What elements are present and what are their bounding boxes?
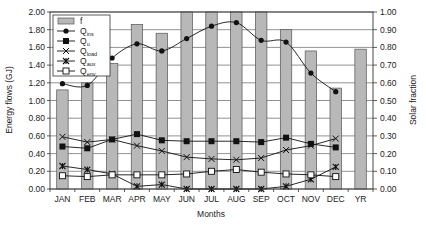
bar-f-oct — [280, 30, 291, 189]
y2-tick-label: 0.80 — [380, 42, 397, 52]
marker-square — [84, 145, 90, 151]
y-tick-label: 0.80 — [28, 113, 45, 123]
marker-square — [134, 131, 140, 137]
x-tick-label: OCT — [277, 194, 295, 204]
marker-open-square — [283, 171, 289, 177]
marker-square — [333, 144, 339, 150]
marker-square — [283, 135, 289, 141]
x-tick-label: MAR — [103, 194, 122, 204]
x-tick-label: AUG — [227, 194, 245, 204]
marker-open-square — [333, 174, 339, 180]
x-axis-label: Months — [197, 209, 225, 219]
chart-container: 0.000.200.400.600.801.001.201.401.601.80… — [0, 0, 426, 226]
marker-diamond — [85, 83, 90, 88]
y2-tick-label: 0.40 — [380, 113, 397, 123]
y-tick-label: 0.40 — [28, 149, 45, 159]
marker-diamond — [159, 48, 164, 53]
y-tick-label: 1.80 — [28, 25, 45, 35]
marker-square — [184, 138, 190, 144]
x-tick-label: FEB — [79, 194, 96, 204]
y2-axis-label: Solar fraction — [408, 75, 418, 125]
y-tick-label: 1.20 — [28, 78, 45, 88]
marker-diamond — [60, 81, 65, 86]
y-tick-label: 1.60 — [28, 42, 45, 52]
marker-open-square — [159, 172, 165, 178]
x-tick-label: YR — [355, 194, 367, 204]
series-q-aux — [59, 163, 338, 192]
y-tick-label: 0.00 — [28, 184, 45, 194]
x-tick-label: MAY — [153, 194, 171, 204]
marker-open-square — [134, 172, 140, 178]
y-tick-label: 1.40 — [28, 60, 45, 70]
y2-tick-label: 0.00 — [380, 184, 397, 194]
y2-tick-label: 0.20 — [380, 149, 397, 159]
marker-diamond — [209, 24, 214, 29]
marker-open-square — [84, 174, 90, 180]
x-tick-label: NOV — [302, 194, 321, 204]
x-tick-label: APR — [128, 194, 145, 204]
bar-f-yr — [355, 49, 366, 189]
x-tick-label: SEP — [253, 194, 270, 204]
marker-open-square — [209, 168, 215, 174]
marker-square — [159, 137, 165, 143]
marker-diamond — [283, 39, 288, 44]
marker-square — [209, 138, 215, 144]
x-tick-label: JUL — [204, 194, 219, 204]
y2-tick-label: 0.10 — [380, 166, 397, 176]
marker-open-square — [59, 173, 65, 179]
x-tick-label: JUN — [178, 194, 195, 204]
combo-chart: 0.000.200.400.600.801.001.201.401.601.80… — [0, 0, 426, 226]
bar-f-may — [156, 33, 167, 189]
x-tick-label: DEC — [327, 194, 345, 204]
x-tick-label: JAN — [54, 194, 70, 204]
series-q-load — [59, 134, 338, 163]
marker-square — [63, 38, 69, 44]
y2-tick-label: 1.00 — [380, 7, 397, 17]
y2-tick-label: 0.90 — [380, 25, 397, 35]
marker-open-square — [258, 169, 264, 175]
marker-open-square — [184, 171, 190, 177]
y-tick-label: 2.00 — [28, 7, 45, 17]
y-tick-label: 1.00 — [28, 96, 45, 106]
bar-f-jul — [206, 12, 217, 189]
series-line — [62, 166, 335, 189]
marker-open-square — [233, 167, 239, 173]
y-axis-label: Energy flows (GJ) — [4, 66, 14, 134]
marker-diamond — [184, 36, 189, 41]
bar-f-aug — [231, 12, 242, 189]
y-tick-label: 0.20 — [28, 166, 45, 176]
series-q-env — [59, 167, 338, 180]
marker-square — [258, 139, 264, 145]
bar-f-apr — [131, 24, 142, 189]
y2-tick-label: 0.50 — [380, 96, 397, 106]
marker-open-square — [308, 172, 314, 178]
marker-diamond — [63, 28, 68, 33]
marker-open-square — [63, 68, 69, 74]
bar-f-mar — [106, 63, 117, 189]
marker-diamond — [308, 70, 313, 75]
marker-diamond — [259, 38, 264, 43]
marker-square — [233, 138, 239, 144]
marker-diamond — [134, 41, 139, 46]
legend-bar-swatch — [58, 18, 74, 24]
marker-diamond — [234, 20, 239, 25]
marker-square — [59, 144, 65, 150]
bar-f-feb — [82, 83, 93, 189]
y2-tick-label: 0.60 — [380, 78, 397, 88]
marker-diamond — [333, 89, 338, 94]
y2-tick-label: 0.30 — [380, 131, 397, 141]
legend: fQinsQuQloadQauxQenv — [53, 15, 110, 77]
y2-tick-label: 0.70 — [380, 60, 397, 70]
series-line — [62, 170, 335, 177]
y-tick-label: 0.60 — [28, 131, 45, 141]
marker-open-square — [109, 172, 115, 178]
